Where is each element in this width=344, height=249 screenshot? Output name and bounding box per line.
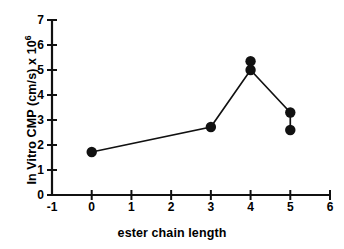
x-axis-title: ester chain length bbox=[0, 226, 344, 240]
x-tick-label: 3 bbox=[200, 200, 222, 214]
y-tick-label: 5 bbox=[28, 63, 44, 77]
y-tick-label: 1 bbox=[28, 163, 44, 177]
x-tick-label: 4 bbox=[240, 200, 262, 214]
data-line bbox=[92, 61, 291, 152]
y-tick-label: 3 bbox=[28, 113, 44, 127]
y-tick-label: 2 bbox=[28, 138, 44, 152]
x-tick-label: 6 bbox=[319, 200, 341, 214]
y-tick-label: 7 bbox=[28, 13, 44, 27]
x-tick-label: 1 bbox=[120, 200, 142, 214]
data-points bbox=[87, 56, 296, 157]
x-tick-label: 2 bbox=[160, 200, 182, 214]
y-tick-label: 4 bbox=[28, 88, 44, 102]
y-tick-label: 6 bbox=[28, 38, 44, 52]
x-tick-label: -1 bbox=[41, 200, 63, 214]
chart-figure: 01234567 -10123456 In Vitro CMP (cm/s) x… bbox=[0, 0, 344, 249]
x-tick-label: 0 bbox=[81, 200, 103, 214]
x-tick-label: 5 bbox=[279, 200, 301, 214]
